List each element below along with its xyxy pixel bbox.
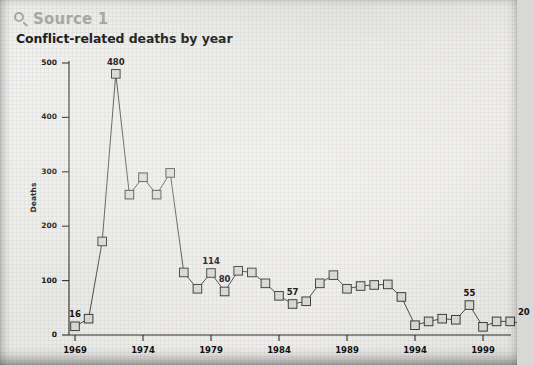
data-point-label: 80 — [208, 274, 242, 284]
y-axis-title: Deaths — [29, 178, 38, 218]
data-point-label: 57 — [276, 287, 310, 297]
y-axis-tick-label: 300 — [31, 167, 57, 176]
data-point-label: 480 — [99, 57, 133, 67]
y-axis-tick-label: 0 — [31, 330, 57, 339]
data-point-label: 55 — [452, 288, 486, 298]
x-axis-tick-label: 1974 — [123, 345, 163, 355]
y-axis-tick-label: 500 — [31, 58, 57, 67]
x-axis-tick-label: 1969 — [55, 345, 95, 355]
x-axis-tick-label: 1999 — [463, 345, 503, 355]
x-axis-tick-label: 1989 — [327, 345, 367, 355]
x-axis-tick-label: 1994 — [395, 345, 435, 355]
x-axis-tick-label: 1979 — [191, 345, 231, 355]
y-axis-tick-label: 400 — [31, 112, 57, 121]
data-point-label: 114 — [194, 256, 228, 266]
x-axis-tick-label: 1984 — [259, 345, 299, 355]
y-axis-tick-label: 100 — [31, 276, 57, 285]
data-point-label: 16 — [58, 309, 92, 319]
data-point-label: 20 — [507, 307, 534, 317]
y-axis-tick-label: 200 — [31, 221, 57, 230]
